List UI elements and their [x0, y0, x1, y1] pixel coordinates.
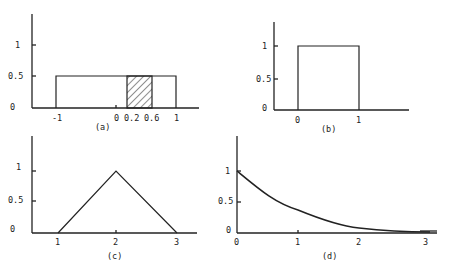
uniform-density-line — [298, 46, 359, 110]
y-tick-label: 0.5 — [8, 195, 23, 205]
x-tick-label: 2 — [113, 237, 118, 247]
exponential-density-curve — [237, 171, 430, 232]
panel-caption: (c) — [107, 251, 122, 261]
figure: 1 0.5 0 -1 0 0.2 0.6 1 (a) 1 0.5 0 0 1 (… — [0, 0, 450, 272]
x-tick-label: 0.2 — [124, 113, 139, 123]
shaded-region — [127, 76, 152, 108]
uniform-density-line — [56, 76, 176, 108]
y-tick-label: 0.5 — [218, 196, 233, 206]
y-tick-label: 0.5 — [8, 71, 23, 81]
y-tick-label: 0 — [226, 225, 231, 235]
y-tick-label: 1 — [15, 40, 20, 50]
x-tick-label: 0 — [295, 115, 300, 125]
x-tick-label: 0 — [114, 113, 119, 123]
y-tick-label: 1 — [262, 41, 267, 51]
panel-d: 1 0.5 0 0 1 2 3 (d) — [218, 136, 437, 261]
x-tick-label: 1 — [295, 237, 300, 247]
x-tick-label: 0 — [234, 237, 239, 247]
panel-caption: (a) — [95, 122, 110, 132]
x-tick-label: 0.6 — [144, 113, 159, 123]
x-tick-label: 3 — [423, 237, 428, 247]
x-tick-label: 2 — [356, 237, 361, 247]
y-tick-label: 0 — [10, 102, 15, 112]
x-tick-label: 1 — [356, 115, 361, 125]
x-tick-label: 3 — [174, 237, 179, 247]
y-tick-label: 1 — [16, 162, 21, 172]
y-tick-label: 0 — [262, 103, 267, 113]
panel-a: 1 0.5 0 -1 0 0.2 0.6 1 (a) — [8, 14, 199, 132]
panel-b: 1 0.5 0 0 1 (b) — [256, 22, 409, 134]
panel-c: 1 0.5 0 1 2 3 (c) — [8, 136, 197, 261]
x-tick-label: 1 — [174, 113, 179, 123]
y-tick-label: 0.5 — [256, 74, 271, 84]
x-tick-label: 1 — [55, 237, 60, 247]
panel-caption: (d) — [322, 251, 337, 261]
y-tick-label: 0 — [10, 224, 15, 234]
triangular-density-line — [58, 171, 177, 233]
x-tick-label: -1 — [52, 113, 62, 123]
panel-caption: (b) — [321, 124, 336, 134]
y-tick-label: 1 — [225, 166, 230, 176]
